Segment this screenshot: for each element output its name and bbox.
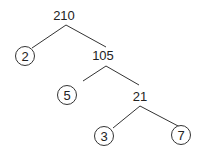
node-21: 21 (133, 89, 147, 104)
node-210: 210 (53, 8, 75, 23)
edge-21-7 (140, 106, 180, 127)
edge-105-5 (83, 66, 106, 81)
node-5: 5 (63, 88, 70, 103)
node-3: 3 (100, 129, 107, 144)
edge-105-21 (106, 66, 139, 85)
edge-21-3 (113, 106, 140, 128)
edge-210-105 (66, 25, 106, 47)
node-7: 7 (177, 128, 184, 143)
edge-210-2 (32, 25, 66, 48)
factor-tree: 210 2 105 5 21 3 7 (0, 0, 203, 160)
node-2: 2 (21, 49, 28, 64)
node-105: 105 (92, 48, 114, 63)
